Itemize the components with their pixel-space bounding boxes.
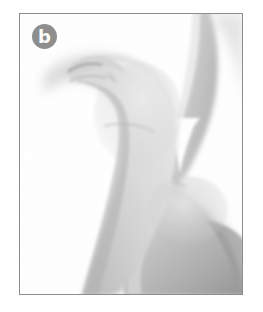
hand-photograph xyxy=(20,14,242,294)
hand-illustration xyxy=(20,14,242,294)
panel-label-letter: b xyxy=(38,27,51,45)
figure-panel-b: b xyxy=(0,0,263,312)
film-grain xyxy=(20,14,242,294)
photo-frame: b xyxy=(19,13,243,295)
panel-label-badge: b xyxy=(32,24,57,49)
